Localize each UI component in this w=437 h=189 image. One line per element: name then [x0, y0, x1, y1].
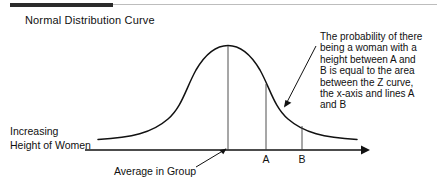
y-axis-label: Increasing Height of Women — [10, 125, 91, 152]
x-axis-arrow-icon — [361, 146, 370, 155]
y-axis-label-line-1: Increasing — [10, 125, 91, 139]
annotation-line-7: and B — [320, 99, 437, 110]
tick-label-b: B — [295, 153, 309, 165]
annotation-line-1: The probability of there — [320, 31, 437, 42]
annotation-line-4: B is equal to the area — [320, 65, 437, 76]
normal-curve-path — [98, 46, 357, 140]
normal-distribution-figure: Normal Distribution Curve Increasing Hei… — [0, 0, 437, 189]
probability-annotation: The probability of there being a woman w… — [320, 31, 437, 111]
annotation-leader-arrow-icon — [284, 100, 291, 108]
tick-label-a: A — [259, 153, 273, 165]
mean-leader-arrow-icon — [220, 148, 227, 154]
annotation-line-3: height between A and — [320, 54, 437, 65]
mean-label: Average in Group — [114, 165, 196, 178]
annotation-leader-line — [285, 46, 316, 106]
y-axis-label-line-2: Height of Women — [10, 139, 91, 153]
annotation-line-6: the x-axis and lines A — [320, 88, 437, 99]
annotation-line-5: between the Z curve, — [320, 77, 437, 88]
annotation-line-2: being a woman with a — [320, 42, 437, 53]
